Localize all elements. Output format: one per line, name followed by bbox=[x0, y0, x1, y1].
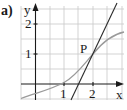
y-tick-1: 1 bbox=[25, 47, 32, 60]
point-p-label: P bbox=[80, 42, 87, 55]
y-tick-2: 2 bbox=[25, 17, 32, 30]
y-axis-arrow-icon bbox=[33, 3, 39, 11]
y-axis-label: y bbox=[24, 3, 31, 16]
x-tick-2: 2 bbox=[89, 87, 96, 100]
x-tick-1: 1 bbox=[60, 87, 67, 100]
x-axis-label: x bbox=[116, 88, 123, 101]
curve-series bbox=[21, 32, 124, 99]
